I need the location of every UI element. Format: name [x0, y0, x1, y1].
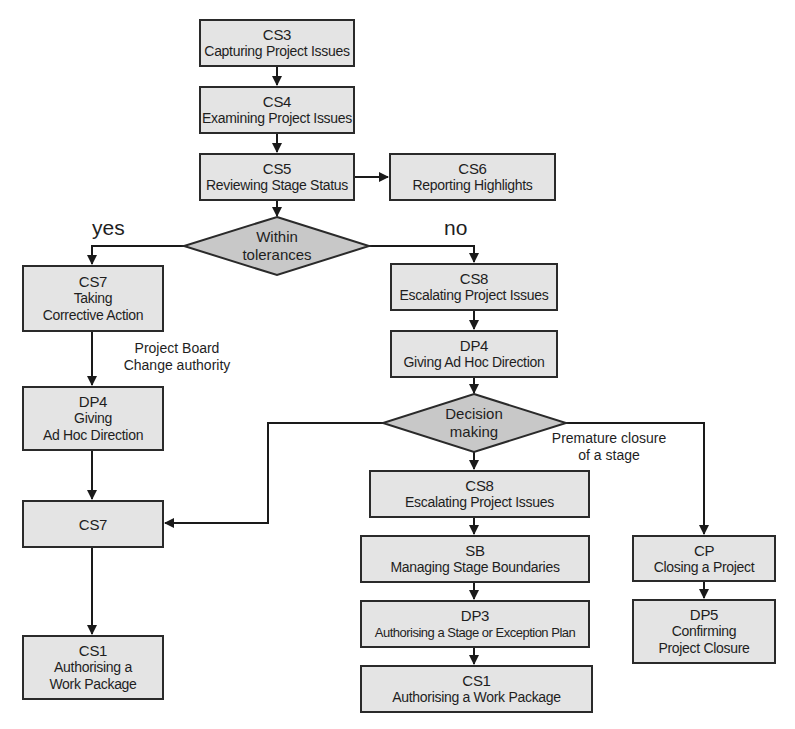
- node-code: DP5: [690, 606, 718, 623]
- decision-label: Decision: [445, 405, 503, 423]
- node-label: Escalating Project Issues: [400, 287, 549, 304]
- note-line: Project Board: [114, 340, 240, 357]
- node-code: CS8: [460, 270, 488, 287]
- node-label: Confirming: [672, 623, 737, 640]
- node-dp4-giving-ad-hoc-direction-left[interactable]: DP4 Giving Ad Hoc Direction: [22, 386, 164, 451]
- yes-label: yes: [92, 216, 125, 240]
- node-code: CS7: [79, 273, 107, 290]
- no-label: no: [444, 216, 467, 240]
- node-label: Reviewing Stage Status: [206, 177, 348, 194]
- node-label: Reporting Highlights: [412, 177, 532, 194]
- node-sb-managing-stage-boundaries[interactable]: SB Managing Stage Boundaries: [360, 535, 590, 583]
- node-dp5-confirming-project-closure[interactable]: DP5 Confirming Project Closure: [632, 599, 776, 664]
- node-label: Corrective Action: [43, 307, 144, 324]
- node-label: Taking: [74, 290, 113, 307]
- node-code: DP4: [460, 337, 488, 354]
- node-cs8-escalating-project-issues-2[interactable]: CS8 Escalating Project Issues: [369, 470, 590, 518]
- node-code: SB: [465, 542, 484, 559]
- node-label: Authorising a: [54, 659, 132, 676]
- node-label: Examining Project Issues: [202, 110, 352, 127]
- node-label: Project Closure: [658, 640, 749, 657]
- premature-closure-note: Premature closure of a stage: [544, 430, 674, 464]
- arrow-yes-cs7: [92, 246, 184, 264]
- arrow-no-cs8: [369, 246, 474, 262]
- project-board-change-authority-note: Project Board Change authority: [114, 340, 240, 374]
- arrow-decision-cs7: [165, 423, 383, 523]
- node-code: DP3: [461, 607, 489, 624]
- node-cs8-escalating-project-issues[interactable]: CS8 Escalating Project Issues: [390, 263, 558, 311]
- decision-making[interactable]: Decision making: [411, 403, 537, 443]
- node-cp-closing-a-project[interactable]: CP Closing a Project: [632, 535, 776, 582]
- note-line: Change authority: [114, 357, 240, 374]
- node-code: CS3: [263, 26, 291, 43]
- node-cs4[interactable]: CS4 Examining Project Issues: [199, 86, 355, 134]
- node-code: CS1: [462, 672, 490, 689]
- note-line: Premature closure: [544, 430, 674, 447]
- node-label: Authorising a Work Package: [392, 689, 561, 706]
- node-code: CS1: [79, 642, 107, 659]
- node-label: Giving: [74, 410, 112, 427]
- node-label: Giving Ad Hoc Direction: [404, 354, 545, 371]
- note-line: of a stage: [544, 447, 674, 464]
- decision-within-tolerances[interactable]: Within tolerances: [214, 226, 340, 266]
- node-label: Closing a Project: [654, 559, 755, 576]
- node-cs1-authorising-work-package-right[interactable]: CS1 Authorising a Work Package: [360, 665, 593, 713]
- node-label: Authorising a Stage or Exception Plan: [375, 624, 575, 641]
- node-label: Work Package: [49, 676, 136, 693]
- node-code: CS6: [458, 160, 486, 177]
- node-label: Escalating Project Issues: [405, 494, 554, 511]
- node-cs1-authorising-work-package-left[interactable]: CS1 Authorising a Work Package: [22, 635, 164, 700]
- decision-label: Within: [256, 228, 298, 246]
- node-cs5[interactable]: CS5 Reviewing Stage Status: [199, 153, 355, 201]
- node-code: CS7: [79, 516, 107, 533]
- node-cs7-taking-corrective-action[interactable]: CS7 Taking Corrective Action: [22, 265, 164, 332]
- node-code: CP: [694, 542, 714, 559]
- decision-label: making: [450, 423, 498, 441]
- node-code: CS4: [263, 93, 291, 110]
- node-label: Capturing Project Issues: [204, 43, 349, 60]
- node-dp3-authorising-stage[interactable]: DP3 Authorising a Stage or Exception Pla…: [360, 600, 590, 648]
- decision-label: tolerances: [242, 246, 311, 264]
- node-code: CS8: [465, 477, 493, 494]
- node-cs3[interactable]: CS3 Capturing Project Issues: [199, 19, 355, 67]
- node-dp4-giving-ad-hoc-direction-right[interactable]: DP4 Giving Ad Hoc Direction: [390, 330, 558, 378]
- node-cs7[interactable]: CS7: [22, 500, 164, 548]
- node-code: CS5: [263, 160, 291, 177]
- flowchart-canvas: CS3 Capturing Project Issues CS4 Examini…: [0, 0, 795, 729]
- node-label: Managing Stage Boundaries: [390, 559, 559, 576]
- node-code: DP4: [79, 393, 107, 410]
- node-label: Ad Hoc Direction: [43, 427, 143, 444]
- node-cs6[interactable]: CS6 Reporting Highlights: [389, 153, 556, 201]
